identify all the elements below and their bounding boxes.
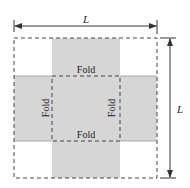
shaded-cross [14, 38, 157, 178]
height-dimension [160, 38, 176, 178]
box-net-diagram: L L Fold Fold Fold Fold [0, 0, 190, 188]
fold-label-left: Fold [40, 99, 51, 117]
fold-label-bottom: Fold [77, 129, 95, 140]
fold-label-top: Fold [77, 64, 95, 75]
width-label: L [82, 13, 89, 25]
fold-label-right: Fold [106, 99, 117, 117]
height-label: L [176, 103, 183, 115]
